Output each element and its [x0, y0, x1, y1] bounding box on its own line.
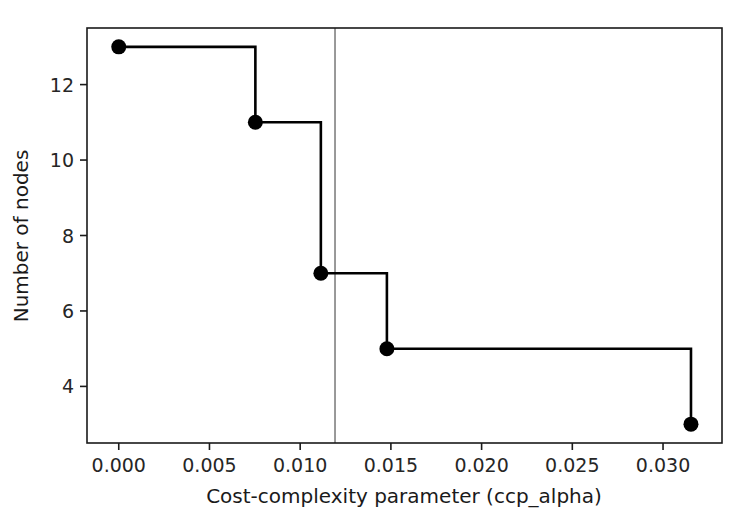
y-tick-label: 10: [50, 149, 74, 171]
data-point-marker: [111, 39, 126, 54]
plot-area-background: [87, 28, 722, 443]
data-point-marker: [683, 417, 698, 432]
x-tick-label: 0.005: [182, 454, 236, 476]
y-tick-label: 12: [50, 74, 74, 96]
x-tick-label: 0.000: [92, 454, 146, 476]
chart-canvas: 0.0000.0050.0100.0150.0200.0250.030 4681…: [0, 0, 748, 525]
y-tick-label: 8: [62, 225, 74, 247]
x-tick-label: 0.030: [636, 454, 690, 476]
x-axis-tick-labels: 0.0000.0050.0100.0150.0200.0250.030: [92, 454, 691, 476]
data-point-marker: [313, 266, 328, 281]
x-tick-label: 0.015: [364, 454, 418, 476]
x-tick-label: 0.020: [454, 454, 508, 476]
data-point-marker: [248, 115, 263, 130]
y-axis-ticks: [80, 85, 87, 387]
x-axis-ticks: [119, 443, 663, 450]
y-tick-label: 6: [62, 300, 74, 322]
x-tick-label: 0.025: [545, 454, 599, 476]
chart-figure: 0.0000.0050.0100.0150.0200.0250.030 4681…: [0, 0, 748, 525]
y-axis-tick-labels: 4681012: [50, 74, 74, 398]
data-point-marker: [379, 341, 394, 356]
y-tick-label: 4: [62, 375, 74, 397]
x-tick-label: 0.010: [273, 454, 327, 476]
y-axis-label: Number of nodes: [9, 150, 33, 323]
x-axis-label: Cost-complexity parameter (ccp_alpha): [206, 484, 602, 508]
